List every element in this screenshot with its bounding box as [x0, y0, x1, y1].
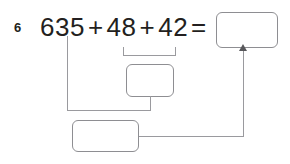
connector-riser-to-answer: [243, 50, 244, 137]
expression-operator-2: +: [137, 12, 159, 42]
expression-term-3: 42: [158, 12, 188, 42]
brace-horizontal-bar: [123, 55, 176, 56]
answer-input-box[interactable]: [216, 12, 278, 48]
expression-equals-sign: =: [188, 12, 210, 42]
brace-right-tick: [175, 47, 176, 56]
question-number: 6: [14, 20, 21, 35]
expression-term-1: 635: [40, 12, 85, 42]
connector-junction-bar: [67, 110, 151, 111]
arrow-up-icon: [239, 44, 247, 51]
connector-from-middle-box: [150, 96, 151, 111]
expression-term-2: 48: [107, 12, 137, 42]
bottom-working-box[interactable]: [72, 120, 139, 152]
connector-from-bottom-box: [139, 136, 244, 137]
worksheet-problem-canvas: 6 635+48+42=: [0, 0, 290, 164]
math-expression: 635+48+42=: [40, 12, 210, 43]
expression-operator-1: +: [85, 12, 107, 42]
connector-from-first-term: [67, 36, 68, 111]
middle-working-box[interactable]: [126, 64, 174, 97]
